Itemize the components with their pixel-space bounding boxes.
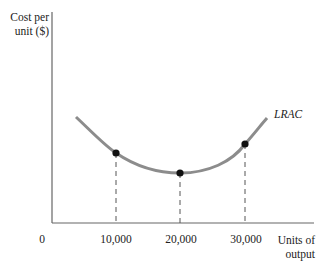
x-axis-label-line-2: output	[278, 247, 315, 261]
lrac-label: LRAC	[274, 108, 302, 120]
x-tick-0: 0	[39, 233, 45, 245]
x-tick-30000: 30,000	[230, 233, 262, 245]
x-tick-20000: 20,000	[165, 233, 197, 245]
point-10000	[112, 149, 119, 156]
point-30000	[241, 140, 248, 147]
x-tick-10000: 10,000	[100, 233, 132, 245]
lrac-curve	[76, 117, 267, 173]
x-axis-label: Units of output	[278, 233, 315, 261]
x-axis-label-line-1: Units of	[278, 233, 315, 247]
droplines	[116, 144, 245, 223]
point-20000	[176, 169, 183, 176]
